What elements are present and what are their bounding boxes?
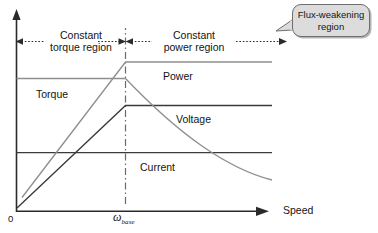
flux-weakening-callout: Flux-weakening region xyxy=(292,4,370,37)
torque-series-label: Torque xyxy=(36,88,68,100)
omega-subscript: base xyxy=(121,218,134,226)
flux-weakening-line1: Flux-weakening xyxy=(298,9,365,20)
figure-canvas: Constant torque region Constant power re… xyxy=(0,0,378,233)
constant-power-line1: Constant xyxy=(150,29,238,41)
constant-torque-line2: torque region xyxy=(37,41,125,53)
flux-weakening-callout-text: Flux-weakening region xyxy=(296,9,367,32)
origin-label: 0 xyxy=(8,214,13,225)
constant-torque-line1: Constant xyxy=(37,29,125,41)
constant-power-arrowhead-right xyxy=(279,38,287,45)
voltage-curve xyxy=(17,106,272,209)
constant-torque-region-label: Constant torque region xyxy=(37,29,125,53)
constant-power-line2: power region xyxy=(150,41,238,53)
power-curve xyxy=(22,62,272,198)
flux-weakening-line2: region xyxy=(298,21,365,32)
x-axis-label: Speed xyxy=(283,204,313,216)
power-series-label: Power xyxy=(163,70,193,82)
x-axis-arrowhead xyxy=(256,207,269,216)
y-axis-arrowhead xyxy=(12,9,20,20)
base-speed-tick-label: ωbase xyxy=(113,211,135,226)
callout-pointer-tail xyxy=(276,20,292,31)
constant-power-region-label: Constant power region xyxy=(150,29,238,53)
voltage-series-label: Voltage xyxy=(176,113,211,125)
current-series-label: Current xyxy=(140,161,175,173)
constant-power-arrowhead-left xyxy=(126,38,134,44)
